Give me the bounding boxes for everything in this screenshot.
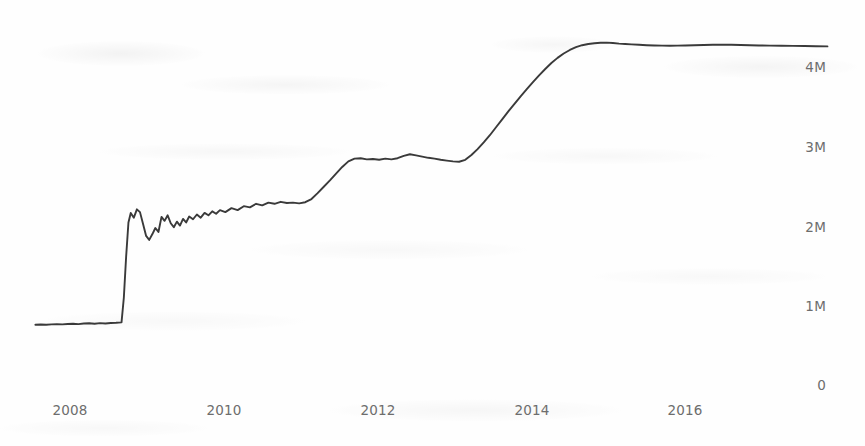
y-tick-label-2m: 2M [772,221,826,235]
x-tick-label-2012: 2012 [343,404,413,418]
chart-plot-area [0,0,865,446]
x-tick-label-2016: 2016 [650,404,720,418]
line-chart: 4M 3M 2M 1M 0 2008 2010 2012 2014 2016 [0,0,865,446]
data-series-line [35,43,827,325]
y-tick-label-0: 0 [772,379,826,393]
y-tick-label-4m: 4M [772,61,826,75]
y-tick-label-1m: 1M [772,300,826,314]
x-tick-label-2014: 2014 [497,404,567,418]
x-tick-label-2008: 2008 [35,404,105,418]
y-tick-label-3m: 3M [772,141,826,155]
x-tick-label-2010: 2010 [189,404,259,418]
